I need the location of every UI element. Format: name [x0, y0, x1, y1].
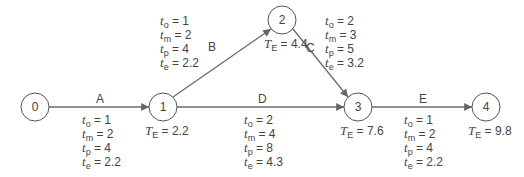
node-3-te: TE = 7.6 [340, 124, 384, 138]
node-1-te: TE = 2.2 [145, 124, 189, 138]
activity-D-name: D [258, 92, 267, 106]
activity-C-name: C [306, 41, 315, 55]
activity-E-name: E [419, 92, 427, 106]
activity-C-times: to = 2 tm = 3 tp = 5 te = 3.2 [325, 14, 364, 70]
activity-B-times: to = 1 tm = 2 tp = 4 te = 2.2 [160, 14, 199, 70]
activity-A-name: A [96, 92, 104, 106]
node-2-label: 2 [268, 13, 296, 27]
node-0-label: 0 [21, 100, 49, 114]
activity-A-times: to = 1 tm = 2 tp = 4 te = 2.2 [82, 113, 121, 169]
node-3-label: 3 [344, 100, 372, 114]
node-2-te: TE = 4.4 [264, 37, 308, 51]
node-4-te: TE = 9.8 [468, 124, 512, 138]
activity-E-times: to = 1 tm = 2 tp = 4 te = 2.2 [404, 113, 443, 169]
node-1-label: 1 [149, 100, 177, 114]
activity-D-times: to = 2 tm = 4 tp = 8 te = 4.3 [244, 113, 283, 169]
node-4-label: 4 [472, 100, 500, 114]
activity-B-name: B [208, 40, 216, 54]
